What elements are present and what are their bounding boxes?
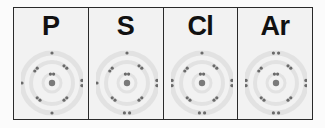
atom-icon <box>171 45 233 117</box>
element-symbol: Ar <box>238 10 312 42</box>
element-symbol: P <box>14 10 88 42</box>
element-cell-argon: Ar <box>238 8 312 119</box>
bohr-model-chlorine <box>171 45 233 117</box>
element-symbol: Cl <box>164 10 238 42</box>
bohr-model-argon <box>245 45 307 117</box>
atom-icon <box>245 45 307 117</box>
bohr-model-phosphorus <box>21 45 83 117</box>
atom-icon <box>96 45 158 117</box>
element-symbol: S <box>89 10 163 42</box>
bohr-diagram-table: P S Cl Ar <box>13 7 313 120</box>
element-cell-phosphorus: P <box>14 8 89 119</box>
atom-icon <box>21 45 83 117</box>
bohr-model-sulfur <box>96 45 158 117</box>
element-cell-chlorine: Cl <box>164 8 239 119</box>
element-cell-sulfur: S <box>89 8 164 119</box>
